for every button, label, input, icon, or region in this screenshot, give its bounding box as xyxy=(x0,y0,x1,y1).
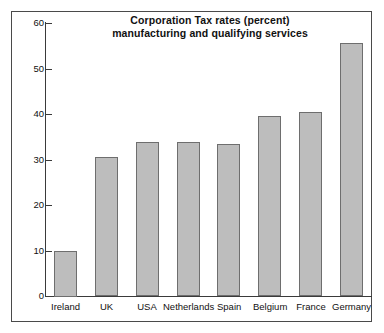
bar xyxy=(258,116,281,296)
y-axis-tick xyxy=(46,114,52,115)
y-axis-tick xyxy=(46,69,52,70)
bar xyxy=(299,112,322,296)
x-axis-category-label: Belgium xyxy=(253,301,287,312)
y-axis-tick xyxy=(46,205,52,206)
x-axis-category-label: France xyxy=(296,301,326,312)
chart-figure: Corporation Tax rates (percent) manufact… xyxy=(0,0,384,333)
y-axis-tick-label: 20 xyxy=(14,200,44,210)
x-axis-category-label: USA xyxy=(137,301,157,312)
bar xyxy=(54,251,77,297)
y-axis-tick-label: 0 xyxy=(14,291,44,301)
chart-title: Corporation Tax rates (percent) manufact… xyxy=(60,14,360,40)
bar xyxy=(95,157,118,296)
x-axis-category-label: Germany xyxy=(332,301,371,312)
y-axis-tick xyxy=(46,251,52,252)
y-axis-tick xyxy=(46,296,52,297)
y-axis-tick-label: 30 xyxy=(14,155,44,165)
x-axis-category-label: Spain xyxy=(217,301,241,312)
x-axis-category-label: UK xyxy=(100,301,113,312)
y-axis-tick xyxy=(46,23,52,24)
chart-title-line-1: Corporation Tax rates (percent) xyxy=(60,14,360,27)
x-axis-category-label: Ireland xyxy=(51,301,80,312)
y-axis-tick-label: 50 xyxy=(14,64,44,74)
x-axis-category-label: Netherlands xyxy=(163,301,214,312)
y-axis-tick-label: 40 xyxy=(14,109,44,119)
y-axis-tick xyxy=(46,160,52,161)
bar xyxy=(217,144,240,296)
bar xyxy=(136,142,159,296)
y-axis-tick-label: 10 xyxy=(14,246,44,256)
chart-title-line-2: manufacturing and qualifying services xyxy=(60,27,360,40)
y-axis-tick-label: 60 xyxy=(14,18,44,28)
bar xyxy=(177,142,200,296)
x-axis-line xyxy=(45,296,372,297)
bar xyxy=(340,43,363,296)
